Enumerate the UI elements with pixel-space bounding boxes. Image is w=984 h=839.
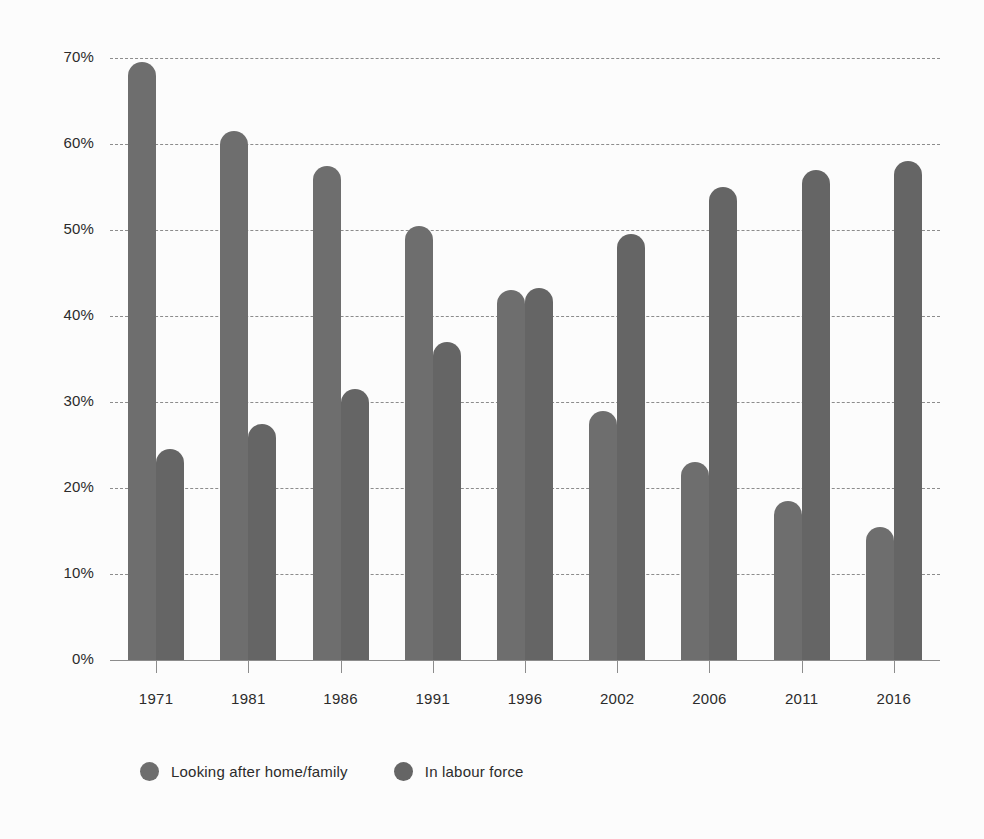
bar[interactable] [248,424,276,661]
bar[interactable] [433,342,461,660]
bar[interactable] [156,449,184,660]
bar-group [681,58,737,660]
y-axis-tick-label: 30% [34,392,94,409]
x-axis-tick-mark [709,660,710,673]
x-axis-tick-label: 1981 [208,690,288,707]
x-axis-tick-mark [802,660,803,673]
bar[interactable] [774,501,802,660]
x-axis-tick-mark [617,660,618,673]
x-axis-tick-label: 2011 [762,690,842,707]
x-axis: 197119811986199119962002200620112016 [110,660,940,720]
x-axis-tick-label: 2006 [669,690,749,707]
bar[interactable] [341,389,369,660]
y-axis-tick-label: 50% [34,220,94,237]
x-axis-tick-label: 1996 [485,690,565,707]
bar[interactable] [405,226,433,660]
x-axis-tick-label: 2016 [854,690,934,707]
x-axis-tick-label: 1986 [301,690,381,707]
x-axis-tick-mark [248,660,249,673]
bar[interactable] [220,131,248,660]
bars-layer [110,58,940,660]
x-axis-tick-mark [433,660,434,673]
x-axis-tick-label: 1991 [393,690,473,707]
bar[interactable] [866,527,894,660]
x-axis-tick-label: 2002 [577,690,657,707]
y-axis-labels: 0%10%20%30%40%50%60%70% [28,58,94,660]
bar[interactable] [128,62,156,660]
bar-group [497,58,553,660]
legend-swatch-circle-icon [140,762,159,781]
x-axis-tick-mark [525,660,526,673]
y-axis-tick-label: 40% [34,306,94,323]
x-axis-tick-mark [894,660,895,673]
x-axis-tick-mark [156,660,157,673]
bar[interactable] [894,161,922,660]
bar-group [128,58,184,660]
bar[interactable] [681,462,709,660]
bar[interactable] [497,290,525,660]
legend-label: Looking after home/family [171,763,348,780]
y-axis-tick-label: 0% [34,650,94,667]
bar[interactable] [802,170,830,660]
legend-item[interactable]: In labour force [394,762,524,781]
y-axis-tick-label: 10% [34,564,94,581]
bar-group [866,58,922,660]
bar-group [405,58,461,660]
bar[interactable] [589,411,617,660]
bar-group [774,58,830,660]
y-axis-tick-label: 20% [34,478,94,495]
x-axis-tick-mark [341,660,342,673]
bar[interactable] [709,187,737,660]
y-axis-tick-label: 60% [34,134,94,151]
legend-label: In labour force [425,763,524,780]
legend-item[interactable]: Looking after home/family [140,762,348,781]
legend-swatch-circle-icon [394,762,413,781]
bar-group [220,58,276,660]
y-axis-tick-label: 70% [34,48,94,65]
bar[interactable] [617,234,645,660]
x-axis-tick-label: 1971 [116,690,196,707]
bar[interactable] [525,288,553,660]
chart-legend: Looking after home/familyIn labour force [140,762,524,781]
bar-group [313,58,369,660]
bar[interactable] [313,166,341,661]
chart-container: 0%10%20%30%40%50%60%70% 1971198119861991… [0,0,984,839]
bar-group [589,58,645,660]
